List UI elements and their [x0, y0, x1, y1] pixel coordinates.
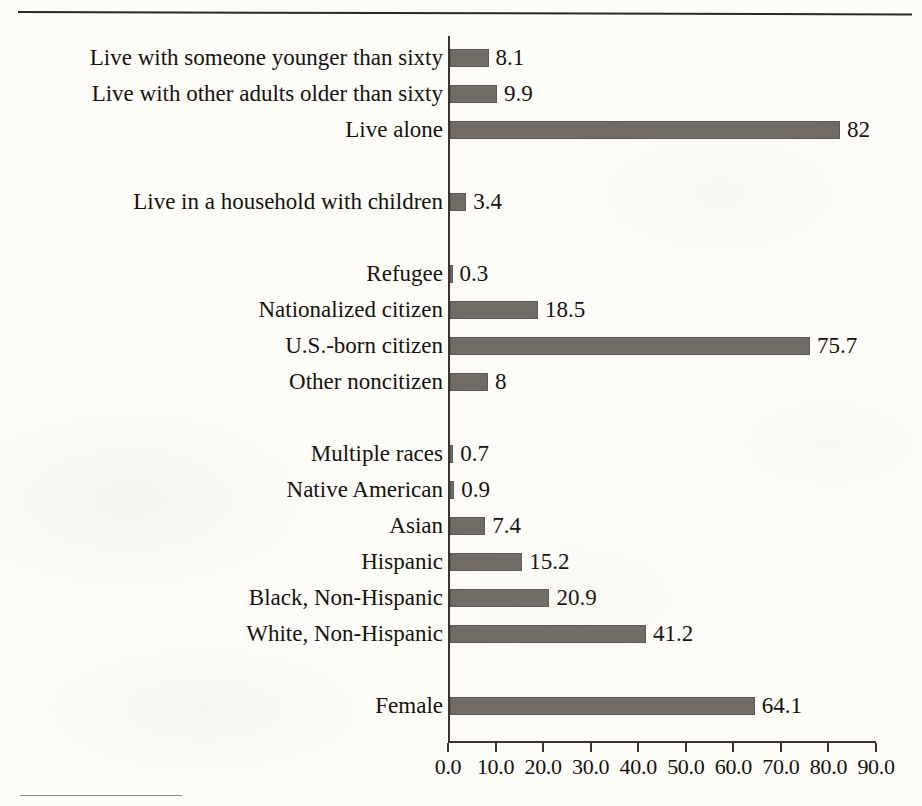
x-axis-line [448, 741, 876, 743]
bar-row: Refugee0.3 [0, 265, 922, 283]
bar-value-label: 82 [847, 116, 870, 144]
bar-category-label: White, Non-Hispanic [13, 620, 443, 648]
x-axis-tick [495, 743, 497, 752]
bar-category-label: Live with someone younger than sixty [13, 44, 443, 72]
bar-row: Live with someone younger than sixty8.1 [0, 49, 922, 67]
bar-category-label: Live with other adults older than sixty [13, 80, 443, 108]
x-axis-tick-label: 40.0 [612, 754, 664, 780]
x-axis-tick [590, 743, 592, 752]
x-axis-tick-label: 50.0 [660, 754, 712, 780]
bar[interactable] [450, 337, 810, 355]
x-axis-tick-label: 10.0 [470, 754, 522, 780]
bar-row: White, Non-Hispanic41.2 [0, 625, 922, 643]
x-axis-tick-label: 70.0 [755, 754, 807, 780]
bar-category-label: Native American [13, 476, 443, 504]
x-axis-tick [447, 743, 449, 752]
x-axis-tick-label: 20.0 [517, 754, 569, 780]
bar-row: Hispanic15.2 [0, 553, 922, 571]
bar-category-label: Asian [13, 512, 443, 540]
bar-row: Nationalized citizen18.5 [0, 301, 922, 319]
bar-row: Other noncitizen8 [0, 373, 922, 391]
bar-value-label: 7.4 [492, 512, 521, 540]
bar-value-label: 18.5 [545, 296, 585, 324]
bar-category-label: Hispanic [13, 548, 443, 576]
bar-category-label: Female [13, 692, 443, 720]
bar-row: Live in a household with children3.4 [0, 193, 922, 211]
bar[interactable] [450, 49, 489, 67]
bar[interactable] [450, 517, 485, 535]
bar-row: Live with other adults older than sixty9… [0, 85, 922, 103]
bar-category-label: Live alone [13, 116, 443, 144]
bar-value-label: 0.3 [460, 260, 489, 288]
x-axis-tick [875, 743, 877, 752]
x-axis-tick-label: 0.0 [422, 754, 474, 780]
chart-page: 0.010.020.030.040.050.060.070.080.090.0 … [0, 0, 922, 806]
bar-category-label: Other noncitizen [13, 368, 443, 396]
bar-value-label: 3.4 [473, 188, 502, 216]
bar-value-label: 0.9 [461, 476, 490, 504]
bar-value-label: 0.7 [460, 440, 489, 468]
x-axis-tick [780, 743, 782, 752]
bar[interactable] [450, 553, 522, 571]
bar-row: Female64.1 [0, 697, 922, 715]
bar[interactable] [450, 481, 454, 499]
x-axis-tick [637, 743, 639, 752]
bar[interactable] [450, 445, 453, 463]
bar-category-label: Multiple races [13, 440, 443, 468]
bar-row: Black, Non-Hispanic20.9 [0, 589, 922, 607]
bar-value-label: 9.9 [504, 80, 533, 108]
x-axis-tick [542, 743, 544, 752]
bar-chart-plot-area: 0.010.020.030.040.050.060.070.080.090.0 … [0, 0, 922, 806]
bar[interactable] [450, 193, 466, 211]
x-axis-tick [827, 743, 829, 752]
bar-category-label: Black, Non-Hispanic [13, 584, 443, 612]
bar[interactable] [450, 625, 646, 643]
x-axis-tick-label: 60.0 [707, 754, 759, 780]
x-axis-tick-label: 30.0 [565, 754, 617, 780]
bar[interactable] [450, 265, 453, 283]
bar-category-label: U.S.-born citizen [13, 332, 443, 360]
bar-value-label: 64.1 [762, 692, 802, 720]
bar-value-label: 8.1 [496, 44, 525, 72]
bar-value-label: 41.2 [653, 620, 693, 648]
bar[interactable] [450, 85, 497, 103]
x-axis-tick-label: 80.0 [802, 754, 854, 780]
bar-row: Asian7.4 [0, 517, 922, 535]
bar-category-label: Refugee [13, 260, 443, 288]
bar-category-label: Nationalized citizen [13, 296, 443, 324]
bar-row: Native American0.9 [0, 481, 922, 499]
x-axis-tick [732, 743, 734, 752]
bar-value-label: 75.7 [817, 332, 857, 360]
bar[interactable] [450, 589, 549, 607]
bar-row: Live alone82 [0, 121, 922, 139]
bar-row: U.S.-born citizen75.7 [0, 337, 922, 355]
x-axis-tick-label: 90.0 [850, 754, 902, 780]
bar-row: Multiple races0.7 [0, 445, 922, 463]
bar[interactable] [450, 697, 755, 715]
bar[interactable] [450, 301, 538, 319]
bar-value-label: 20.9 [556, 584, 596, 612]
bar-value-label: 15.2 [529, 548, 569, 576]
bar[interactable] [450, 121, 840, 139]
bar-value-label: 8 [495, 368, 507, 396]
x-axis-tick [685, 743, 687, 752]
bottom-horizontal-rule [20, 795, 182, 796]
bar-category-label: Live in a household with children [13, 188, 443, 216]
bar[interactable] [450, 373, 488, 391]
